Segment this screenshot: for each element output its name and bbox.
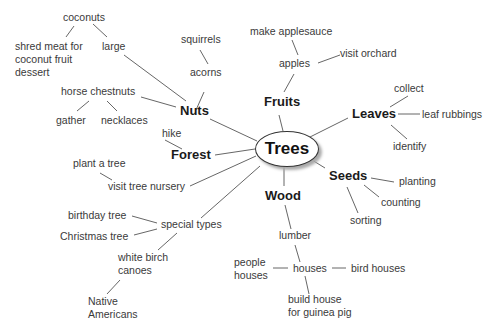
node-visit-orchard: visit orchard <box>340 47 397 60</box>
node-planting: planting <box>399 175 436 188</box>
node-plant-a-tree: plant a tree <box>73 157 126 170</box>
node-counting: counting <box>381 196 421 209</box>
node-sorting: sorting <box>350 214 382 227</box>
node-horse-chestnuts: horse chestnuts <box>61 85 135 98</box>
node-build-house-guinea-pig: build house for guinea pig <box>288 293 352 319</box>
node-birthday-tree: birthday tree <box>68 209 126 222</box>
node-make-applesauce: make applesauce <box>250 25 332 38</box>
node-wood: Wood <box>265 189 301 202</box>
node-squirrels: squirrels <box>181 33 221 46</box>
node-coconuts: coconuts <box>63 11 105 24</box>
node-hike: hike <box>162 127 181 140</box>
node-white-birch-canoes: white birch canoes <box>118 251 168 277</box>
node-necklaces: necklaces <box>101 114 148 127</box>
node-houses: houses <box>293 262 327 275</box>
node-leaf-rubbings: leaf rubbings <box>422 108 482 121</box>
node-nuts: Nuts <box>180 104 209 117</box>
concept-web-diagram: Trees Fruits apples make applesauce visi… <box>0 0 492 334</box>
node-fruits: Fruits <box>264 95 300 108</box>
node-large: large <box>102 40 125 53</box>
center-node-trees: Trees <box>255 131 319 167</box>
node-bird-houses: bird houses <box>351 262 405 275</box>
node-visit-tree-nursery: visit tree nursery <box>108 180 185 193</box>
node-lumber: lumber <box>279 229 311 242</box>
node-shred-meat-dessert: shred meat for coconut fruit dessert <box>15 40 83 79</box>
node-forest: Forest <box>171 148 211 161</box>
node-leaves: Leaves <box>352 107 396 120</box>
node-christmas-tree: Christmas tree <box>60 230 128 243</box>
node-apples: apples <box>279 57 310 70</box>
node-identify: identify <box>393 140 426 153</box>
node-collect: collect <box>394 82 424 95</box>
node-gather: gather <box>56 114 86 127</box>
node-native-americans: Native Americans <box>88 295 138 321</box>
node-acorns: acorns <box>190 66 222 79</box>
node-seeds: Seeds <box>329 169 367 182</box>
node-special-types: special types <box>161 218 222 231</box>
node-people-houses: people houses <box>234 256 268 282</box>
